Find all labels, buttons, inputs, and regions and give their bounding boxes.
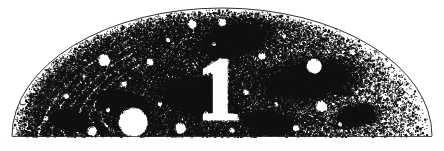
corner-mark: ~~~ [426, 120, 435, 125]
stipple-engraving-canvas [0, 0, 444, 151]
figure-plate: ~~~ [0, 0, 444, 151]
